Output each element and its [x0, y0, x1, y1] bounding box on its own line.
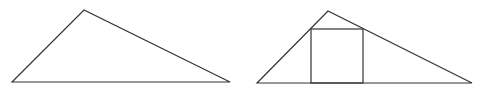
right-triangle — [257, 11, 472, 83]
inscribed-square — [311, 29, 363, 83]
diagram-canvas — [0, 0, 485, 97]
left-triangle — [12, 10, 230, 82]
